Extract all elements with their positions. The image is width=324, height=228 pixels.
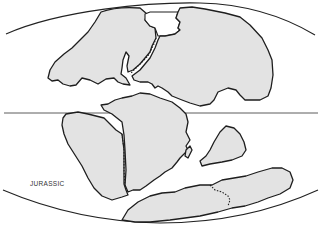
landmass-india: [200, 126, 246, 166]
period-label: JURASSIC: [30, 180, 65, 187]
landmass-south-america: [62, 112, 128, 200]
jurassic-world-map: [0, 0, 324, 228]
